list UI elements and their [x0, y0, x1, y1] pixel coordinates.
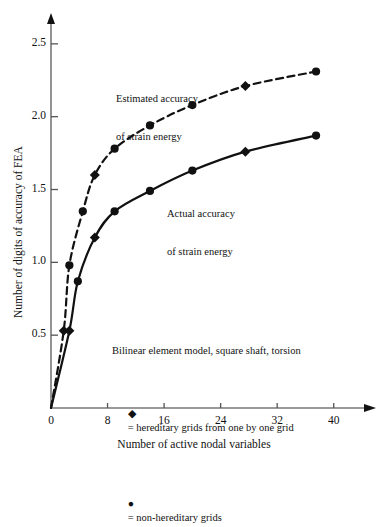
data-point-diamond [240, 147, 250, 157]
annotation-estimated-accuracy: Estimated accuracy of strain energy [116, 68, 198, 168]
data-point-circle [79, 207, 87, 215]
x-tick-label: 0 [39, 414, 63, 426]
annotation-actual-accuracy: Actual accuracy of strain energy [167, 183, 235, 283]
y-tick-label: 2.0 [14, 109, 46, 121]
y-axis-title: Number of digits of accuracy of FEA [12, 146, 24, 318]
x-tick-label: 32 [265, 414, 289, 426]
data-point-circle [65, 261, 73, 269]
annotation-actual-line2: of strain energy [167, 246, 235, 259]
data-point-diamond [90, 170, 100, 180]
data-point-diamond [90, 233, 100, 243]
annotation-actual-line1: Actual accuracy [167, 208, 235, 221]
data-point-circle [111, 207, 119, 215]
x-tick-label: 24 [209, 414, 233, 426]
data-point-circle [74, 277, 82, 285]
legend-entry-non-hereditary-label: = non-hereditary grids [128, 512, 222, 523]
y-tick-label: 2.5 [14, 36, 46, 48]
y-tick-label: 1.5 [14, 182, 46, 194]
x-tick-label: 8 [96, 414, 120, 426]
data-point-circle [312, 132, 320, 140]
y-tick-label: 0.5 [14, 327, 46, 339]
annotation-estimated-line1: Estimated accuracy [116, 93, 198, 106]
data-point-circle [312, 67, 320, 75]
data-point-diamond [240, 81, 250, 91]
data-point-circle [146, 187, 154, 195]
circle-marker-icon: ● [128, 498, 134, 509]
data-point-diamond [64, 326, 74, 336]
annotation-estimated-line2: of strain energy [116, 131, 198, 144]
legend-entry-non-hereditary: ● = non-hereditary grids [112, 484, 301, 527]
diamond-marker-icon: ◆ [128, 408, 136, 419]
y-tick-label: 1.0 [14, 254, 46, 266]
legend-caption: Bilinear element model, square shaft, to… [112, 344, 301, 358]
x-tick-label: 16 [152, 414, 176, 426]
x-tick-label: 40 [322, 414, 346, 426]
